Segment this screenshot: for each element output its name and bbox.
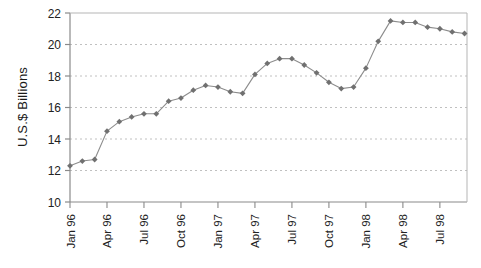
x-tick-label: Jan 96	[65, 214, 77, 249]
y-axis-title-text: U.S.$ Billions	[15, 67, 30, 147]
y-tick-marks	[65, 13, 70, 202]
x-tick-labels: Jan 96Apr 96Jul 96Oct 96Jan 97Apr 97Jul …	[65, 214, 447, 249]
x-tick-label: Jul 98	[434, 214, 446, 245]
x-tick-label: Apr 98	[397, 214, 409, 248]
y-tick-label: 20	[48, 38, 62, 52]
y-tick-label: 18	[48, 70, 62, 84]
x-tick-label: Jan 98	[360, 214, 372, 249]
x-tick-label: Oct 96	[175, 214, 187, 248]
x-tick-label: Apr 96	[101, 214, 113, 248]
x-tick-label: Apr 97	[249, 214, 261, 248]
plot-background	[70, 13, 467, 202]
y-tick-label: 10	[48, 196, 62, 210]
x-tick-label: Oct 97	[323, 214, 335, 248]
y-tick-label: 12	[48, 164, 62, 178]
x-tick-marks	[70, 202, 440, 208]
x-tick-label: Jul 97	[286, 214, 298, 245]
y-axis-title: U.S.$ Billions	[15, 67, 30, 147]
x-tick-label: Jul 96	[138, 214, 150, 245]
y-tick-labels: 10121416182022	[48, 7, 62, 210]
line-chart: 10121416182022 Jan 96Apr 96Jul 96Oct 96J…	[0, 0, 481, 268]
y-tick-label: 16	[48, 101, 62, 115]
y-tick-label: 14	[48, 133, 62, 147]
y-tick-label: 22	[48, 7, 62, 21]
chart-page: 10121416182022 Jan 96Apr 96Jul 96Oct 96J…	[0, 0, 481, 268]
x-tick-label: Jan 97	[212, 214, 224, 249]
